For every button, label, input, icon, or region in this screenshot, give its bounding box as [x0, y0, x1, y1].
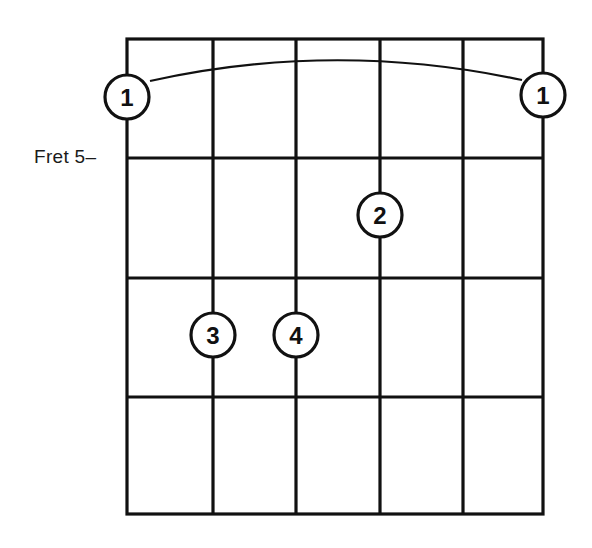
finger-marker-1-right: 1	[521, 73, 565, 117]
finger-marker-1-left: 1	[105, 75, 149, 119]
finger-marker-2: 2	[358, 193, 402, 237]
svg-text:4: 4	[289, 322, 303, 349]
barre-arc	[150, 60, 522, 81]
svg-text:1: 1	[536, 82, 549, 109]
svg-text:3: 3	[206, 322, 219, 349]
svg-text:1: 1	[120, 84, 133, 111]
finger-marker-3: 3	[191, 313, 235, 357]
fret-number-label: Fret 5–	[34, 146, 96, 168]
fretboard-grid	[127, 39, 543, 514]
finger-marker-4: 4	[274, 313, 318, 357]
chord-diagram: 1 1 2 3 4	[0, 0, 592, 548]
svg-text:2: 2	[373, 202, 386, 229]
